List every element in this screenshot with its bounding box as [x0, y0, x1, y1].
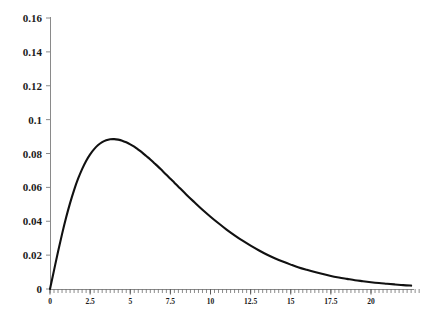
plot-area — [0, 0, 422, 310]
x-axis-tick-label: 2.5 — [85, 298, 94, 306]
y-axis-tick-label: 0.06 — [0, 182, 42, 193]
x-axis-tick-label: 0 — [48, 298, 52, 306]
density-curve-line — [50, 139, 411, 289]
x-axis-tick-label: 12.5 — [244, 298, 257, 306]
x-axis-tick-label: 5 — [128, 298, 132, 306]
y-axis-ticks — [46, 18, 50, 289]
x-axis-tick-label: 15 — [287, 298, 295, 306]
x-axis-tick-label: 17.5 — [324, 298, 337, 306]
axis-lines — [50, 17, 414, 290]
x-axis-tick-label: 20 — [367, 298, 375, 306]
chart-container: 00.020.040.060.080.10.120.140.16 02.557.… — [0, 0, 422, 310]
y-axis-tick-label: 0 — [0, 284, 42, 295]
y-axis-tick-label: 0.16 — [0, 13, 42, 24]
x-axis-tick-label: 7.5 — [166, 298, 175, 306]
y-axis-tick-label: 0.12 — [0, 80, 42, 91]
y-axis-tick-label: 0.1 — [0, 114, 42, 125]
y-axis-tick-label: 0.04 — [0, 216, 42, 227]
y-axis-tick-label: 0.14 — [0, 46, 42, 57]
x-axis-tick-label: 10 — [207, 298, 215, 306]
y-axis-tick-label: 0.08 — [0, 148, 42, 159]
y-axis-tick-label: 0.02 — [0, 250, 42, 261]
